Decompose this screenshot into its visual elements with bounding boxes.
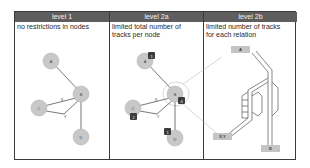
track-layout-level-2b xyxy=(226,51,278,148)
edge-label: X xyxy=(61,97,64,102)
node-label: D xyxy=(174,137,177,142)
node-label: D xyxy=(80,135,83,140)
edge-label: Y xyxy=(64,114,67,119)
node-label: C xyxy=(38,106,41,111)
edge-label: X xyxy=(155,97,158,102)
edge-label: Y xyxy=(157,114,160,119)
node-label: A xyxy=(50,59,53,64)
node-label: A xyxy=(144,59,147,64)
box-label: X,Y xyxy=(219,134,226,139)
box-label: D xyxy=(269,146,272,151)
node-label: B xyxy=(80,92,83,97)
node-label: B xyxy=(174,92,177,97)
node-label: C xyxy=(132,106,135,111)
box-label: A xyxy=(239,47,242,52)
diagram-graphics: A B C D X Y 1 4 2 1 A B C D X xyxy=(0,0,310,168)
